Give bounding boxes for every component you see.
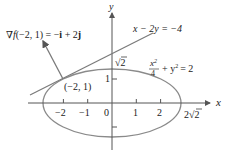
svg-text:+ y2= 2: + y2= 2	[162, 63, 193, 74]
x-axis-label: x	[215, 96, 221, 108]
svg-text:4: 4	[151, 69, 155, 78]
diagram-canvas: y x −2 −1 0 1 2 2√2 1 √2 (−2, 1) x − 2y …	[0, 0, 228, 151]
x-tick-label: 2	[157, 107, 162, 118]
gradient-label: ∇f(−2, 1) = −i + 2j	[6, 29, 81, 41]
tangent-line	[30, 33, 153, 95]
y-tick-label: 1	[105, 73, 110, 84]
x-tick-label: 1	[133, 107, 138, 118]
x-tick-label: 0	[104, 107, 109, 118]
y-intercept-label: √2	[115, 57, 126, 68]
x-tick-label: −1	[79, 107, 90, 118]
point-label: (−2, 1)	[64, 81, 91, 93]
tangent-line-label: x − 2y = −4	[132, 23, 182, 34]
svg-text:x2: x2	[149, 58, 157, 68]
gradient-vector-arrow	[43, 41, 63, 79]
y-axis-label: y	[108, 1, 114, 12]
x-intercept-label: 2√2	[184, 109, 200, 120]
ellipse-equation-label: x2 4 + y2= 2	[149, 58, 193, 78]
x-tick-label: −2	[55, 107, 66, 118]
